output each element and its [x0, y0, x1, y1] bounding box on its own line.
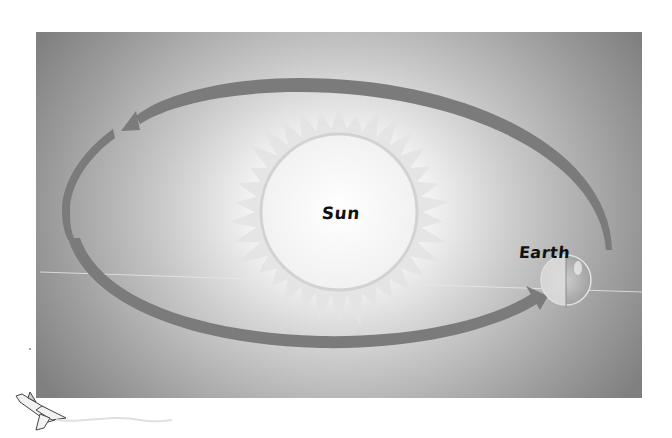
stray-mark	[29, 348, 31, 350]
solar-orbit-diagram: Sun Earth	[0, 0, 672, 438]
earth-label: Earth	[518, 243, 571, 262]
sun-label: Sun	[321, 203, 361, 223]
